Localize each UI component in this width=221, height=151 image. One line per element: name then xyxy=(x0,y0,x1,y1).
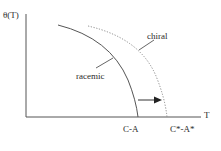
shift-arrow-icon xyxy=(138,97,162,104)
phase-diagram: θ(T) T chiral racemic C-A C*-A* xyxy=(0,0,221,151)
racemic-leader-line xyxy=(96,58,113,68)
chiral-label: chiral xyxy=(147,31,168,41)
y-axis-label: θ(T) xyxy=(3,10,19,20)
racemic-label: racemic xyxy=(76,71,104,81)
x-axis-label: T xyxy=(204,110,210,120)
tick-label-c-a: C-A xyxy=(123,124,139,134)
tick-label-c-star-a-star: C*-A* xyxy=(170,124,195,134)
chiral-leader-line xyxy=(139,40,154,50)
